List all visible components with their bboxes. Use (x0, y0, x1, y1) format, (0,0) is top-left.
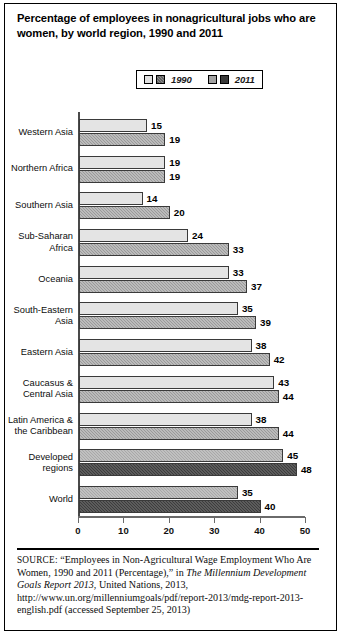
bar-2011 (79, 390, 279, 403)
bar-2011 (79, 280, 247, 293)
category-label: South-Eastern Asia (0, 305, 78, 327)
bar-1990 (79, 413, 252, 426)
category-label: Eastern Asia (0, 347, 78, 358)
bar-value-label: 39 (260, 316, 271, 329)
bar-value-label: 19 (169, 170, 180, 183)
bar-value-label: 33 (233, 266, 244, 279)
bar-1990 (79, 229, 188, 242)
chart-row: Caucasus & Central Asia4344 (78, 369, 305, 406)
bar-value-label: 20 (174, 206, 185, 219)
bar-value-label: 14 (147, 192, 158, 205)
category-label: Northern Africa (0, 163, 78, 174)
legend-item-2011: 2011 (208, 74, 255, 85)
bar-chart-plot: 01020304050Western Asia1519Northern Afri… (78, 112, 305, 516)
category-label: Caucasus & Central Asia (0, 378, 78, 400)
bar-2011 (79, 316, 256, 329)
x-axis-tick (214, 517, 215, 523)
bar-value-label: 44 (283, 390, 294, 403)
bar-2011 (79, 133, 165, 146)
bar-value-label: 38 (256, 339, 267, 352)
chart-row: World3540 (78, 479, 305, 516)
source-divider (17, 548, 319, 550)
bar-1990 (79, 192, 143, 205)
category-label: Oceania (0, 274, 78, 285)
chart-row: Eastern Asia3842 (78, 332, 305, 369)
x-axis-tick (123, 517, 124, 523)
bar-2011 (79, 206, 170, 219)
chart-row: Oceania3337 (78, 259, 305, 296)
chart-row: Western Asia1519 (78, 112, 305, 149)
x-axis-tick-label: 10 (118, 525, 129, 536)
bar-1990 (79, 302, 238, 315)
chart-row: South-Eastern Asia3539 (78, 296, 305, 333)
legend-swatch-1990-a (144, 75, 153, 84)
x-axis-tick-label: 30 (209, 525, 220, 536)
chart-row: Developed regions4548 (78, 443, 305, 480)
x-axis-tick-label: 0 (75, 525, 80, 536)
bar-value-label: 33 (233, 243, 244, 256)
bar-value-label: 19 (169, 133, 180, 146)
bar-2011 (79, 170, 165, 183)
bar-2011 (79, 463, 297, 476)
chart-row: Northern Africa1919 (78, 149, 305, 186)
bar-value-label: 42 (274, 353, 285, 366)
bar-1990 (79, 339, 252, 352)
chart-row: Sub-Saharan Africa2433 (78, 222, 305, 259)
bar-value-label: 35 (242, 486, 253, 499)
legend-label-1990: 1990 (171, 74, 192, 85)
bar-value-label: 43 (278, 376, 289, 389)
x-axis-line (78, 516, 305, 518)
x-axis-tick (260, 517, 261, 523)
x-axis-tick (78, 517, 79, 523)
bar-value-label: 15 (151, 119, 162, 132)
bar-value-label: 19 (169, 156, 180, 169)
chart-legend: 1990 2011 (136, 70, 263, 89)
x-axis-tick-label: 40 (254, 525, 265, 536)
bar-value-label: 40 (265, 500, 276, 513)
x-axis-tick (169, 517, 170, 523)
bar-1990 (79, 119, 147, 132)
bar-1990 (79, 156, 165, 169)
bar-value-label: 44 (283, 427, 294, 440)
bar-value-label: 35 (242, 302, 253, 315)
bar-1990 (79, 376, 274, 389)
bar-value-label: 48 (301, 463, 312, 476)
bar-value-label: 38 (256, 413, 267, 426)
chart-row: Southern Asia1420 (78, 185, 305, 222)
category-label: Sub-Saharan Africa (0, 231, 78, 253)
category-label: Southern Asia (0, 200, 78, 211)
category-label: World (0, 494, 78, 505)
legend-swatch-2011-b (220, 75, 229, 84)
bar-1990 (79, 449, 283, 462)
bar-2011 (79, 500, 261, 513)
bar-2011 (79, 427, 279, 440)
category-label: Latin America & the Caribbean (0, 415, 78, 437)
category-label: Developed regions (0, 452, 78, 474)
chart-row: Latin America & the Caribbean3844 (78, 406, 305, 443)
legend-label-2011: 2011 (235, 74, 255, 85)
legend-swatch-1990-b (156, 75, 165, 84)
page-title: Percentage of employees in nonagricultur… (17, 11, 317, 40)
source-prefix: SOURCE: (17, 555, 58, 565)
source-note: SOURCE: “Employees in Non-Agricultural W… (17, 554, 321, 617)
legend-swatch-2011-a (208, 75, 217, 84)
bar-value-label: 37 (251, 280, 262, 293)
bar-2011 (79, 243, 229, 256)
bar-value-label: 45 (287, 449, 298, 462)
bar-value-label: 24 (192, 229, 203, 242)
x-axis-tick (305, 517, 306, 523)
category-label: Western Asia (0, 127, 78, 138)
bar-1990 (79, 266, 229, 279)
bar-2011 (79, 353, 270, 366)
legend-item-1990: 1990 (144, 74, 192, 85)
x-axis-tick-label: 20 (164, 525, 175, 536)
x-axis-tick-label: 50 (300, 525, 311, 536)
bar-1990 (79, 486, 238, 499)
figure-panel: Percentage of employees in nonagricultur… (0, 0, 341, 635)
